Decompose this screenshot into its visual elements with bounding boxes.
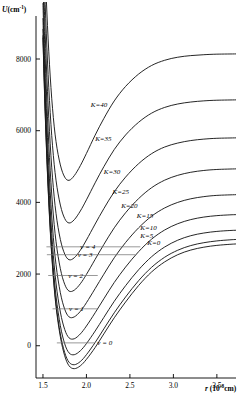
- vibrational-level-label-v1: v = 1: [69, 305, 84, 313]
- x-tick-label: 2.5: [125, 381, 135, 390]
- x-tick-label: 3.0: [169, 381, 179, 390]
- y-tick-label: 6000: [16, 126, 31, 135]
- potential-curve-k30: [43, 0, 236, 260]
- y-tick-label: 0: [27, 341, 31, 350]
- potential-curve-k25: [43, 0, 236, 292]
- y-tick-label: 8000: [16, 55, 31, 64]
- vibrational-level-label-v3: v = 3: [78, 251, 93, 259]
- curve-label-k20: K=20: [120, 202, 138, 210]
- curve-label-k5: K=5: [139, 232, 153, 240]
- curve-label-k15: K=15: [136, 212, 154, 220]
- x-axis-label-units: (10: [208, 384, 220, 393]
- potential-curve-k0: [43, 38, 236, 369]
- curve-label-k10: K=10: [139, 224, 157, 232]
- curve-label-k30: K=30: [103, 168, 121, 176]
- x-tick-label: 1.5: [38, 381, 48, 390]
- potential-curve-k5: [43, 35, 236, 364]
- curve-label-k35: K=35: [94, 135, 112, 143]
- potential-curve-k35: [43, 0, 236, 223]
- x-tick-label: 2.0: [82, 381, 92, 390]
- curve-label-k0: K=0: [146, 239, 160, 247]
- y-tick-label: 2000: [16, 270, 31, 279]
- y-axis-tick-labels: 02000400060008000: [16, 55, 31, 351]
- y-tick-label: 4000: [16, 198, 31, 207]
- y-axis-label-units: (cm: [7, 5, 20, 14]
- potential-energy-curve-figure: 02000400060008000 1.52.02.53.03.5 v = 0v…: [0, 0, 239, 407]
- vibrational-level-label-v2: v = 2: [68, 272, 83, 280]
- x-axis-tick-labels: 1.52.02.53.03.5: [38, 381, 222, 390]
- axes: [36, 16, 236, 378]
- curve-label-k25: K=25: [112, 188, 130, 196]
- vibrational-level-label-v0: v = 0: [97, 339, 112, 347]
- rotational-curve-labels: K=0K=5K=10K=15K=20K=25K=30K=35K=40: [90, 101, 161, 247]
- y-axis-label: U(cm-1): [2, 4, 27, 14]
- curve-label-k40: K=40: [90, 101, 108, 109]
- y-axis-ticks: [36, 59, 40, 346]
- x-axis-label: r (10-8cm): [205, 383, 237, 393]
- potential-curves: [43, 0, 236, 369]
- potential-curve-k40: [43, 0, 236, 180]
- y-axis-label-paren: ): [24, 5, 27, 14]
- potential-curve-k20: [43, 3, 236, 318]
- vibrational-level-label-v4: v = 4: [80, 243, 95, 251]
- x-axis-ticks: [43, 374, 217, 378]
- x-axis-label-paren: cm): [224, 384, 237, 393]
